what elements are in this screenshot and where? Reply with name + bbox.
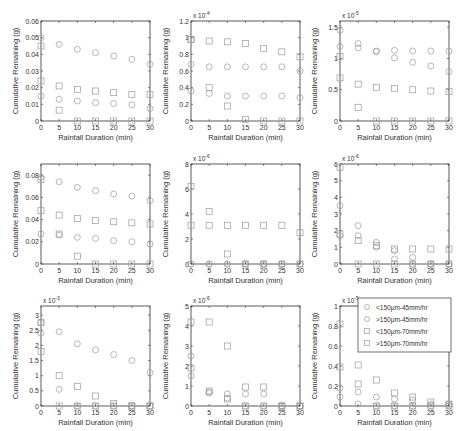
x-axis-label: Rainfall Duration (min) <box>357 133 432 142</box>
y-tick-label: 5 <box>185 303 189 310</box>
y-tick-label: 0.02 <box>25 84 39 91</box>
x-axis-label: Rainfall Duration (min) <box>58 418 133 427</box>
x-tick-label: 10 <box>73 409 81 416</box>
x-tick-label: 15 <box>391 409 399 416</box>
x-tick-label: 20 <box>260 409 268 416</box>
chart-panel-row3-col1: 05101520253000.511.522.53x 10-3Rainfall … <box>11 295 154 427</box>
x-axis-label: Rainfall Duration (min) <box>357 418 432 427</box>
y-tick-label: 1 <box>334 55 338 62</box>
x-tick-label: 15 <box>92 124 100 131</box>
y-tick-label: 1 <box>35 372 39 379</box>
y-tick-label: 1 <box>185 383 189 390</box>
y-tick-label: 2 <box>185 363 189 370</box>
y-tick-label: 0.4 <box>179 84 189 91</box>
y-tick-label: 1.5 <box>328 24 338 31</box>
x-tick-label: 25 <box>427 267 435 274</box>
x-tick-label: 15 <box>92 267 100 274</box>
y-tick-label: 6 <box>185 186 189 193</box>
chart-panel-row1-col1: 05101520253000.010.020.030.040.050.06Rai… <box>11 18 154 143</box>
x-tick-label: 25 <box>128 409 136 416</box>
x-tick-label: 30 <box>296 124 304 131</box>
x-tick-label: 0 <box>338 267 342 274</box>
x-tick-label: 0 <box>189 409 193 416</box>
x-tick-label: 30 <box>445 124 453 131</box>
x-tick-label: 30 <box>445 409 453 416</box>
axes-box <box>41 306 150 406</box>
y-axis-label: Cumulative Remaining (g) <box>11 312 20 399</box>
x-tick-label: 15 <box>391 267 399 274</box>
x-tick-label: 15 <box>242 124 250 131</box>
axes-box <box>191 21 300 121</box>
x-tick-label: 5 <box>207 409 211 416</box>
y-tick-label: 4 <box>334 194 338 201</box>
y-tick-label: 0 <box>35 403 39 410</box>
y-tick-label: 0.2 <box>328 383 338 390</box>
y-tick-label: 2 <box>185 236 189 243</box>
y-tick-label: 8 <box>185 161 189 168</box>
y-axis-label: Cumulative Remaining (g) <box>161 312 170 399</box>
x-tick-label: 25 <box>278 124 286 131</box>
y-tick-label: 0.5 <box>328 86 338 93</box>
axes-box <box>340 21 449 121</box>
x-axis-label: Rainfall Duration (min) <box>58 133 133 142</box>
y-tick-label: 0.05 <box>25 34 39 41</box>
x-tick-label: 25 <box>427 124 435 131</box>
y-tick-label: 1 <box>334 244 338 251</box>
legend-label: >150μm-70mm/hr <box>376 340 428 348</box>
x-axis-label: Rainfall Duration (min) <box>357 276 432 285</box>
y-tick-label: 0 <box>185 261 189 268</box>
x-tick-label: 10 <box>223 124 231 131</box>
y-tick-label: 0 <box>334 118 338 125</box>
x-tick-label: 30 <box>146 409 154 416</box>
y-tick-label: 0.5 <box>29 387 39 394</box>
x-tick-label: 0 <box>338 409 342 416</box>
legend: <150μm-45mm/hr>150μm-45mm/hr<150μm-70mm/… <box>358 298 451 352</box>
y-tick-label: 0.04 <box>25 216 39 223</box>
y-axis-label: Cumulative Remaining (g) <box>11 27 20 114</box>
y-tick-label: 1 <box>334 303 338 310</box>
x-tick-label: 20 <box>409 267 417 274</box>
y-exponent-label: x 10-5 <box>342 10 359 19</box>
y-exponent-label: x 10-5 <box>342 295 359 304</box>
x-tick-label: 10 <box>372 409 380 416</box>
y-tick-label: 0.01 <box>25 101 39 108</box>
y-axis-label: Cumulative Remaining (g) <box>310 170 319 257</box>
y-tick-label: 3 <box>334 211 338 218</box>
x-tick-label: 5 <box>207 124 211 131</box>
y-tick-label: 1.2 <box>179 18 189 25</box>
y-tick-label: 5 <box>334 177 338 184</box>
x-tick-label: 5 <box>57 409 61 416</box>
y-exponent-label: x 10-6 <box>193 295 210 304</box>
y-tick-label: 3 <box>185 343 189 350</box>
x-tick-label: 0 <box>338 124 342 131</box>
x-tick-label: 10 <box>372 267 380 274</box>
x-tick-label: 30 <box>296 409 304 416</box>
y-tick-label: 0.4 <box>328 363 338 370</box>
x-tick-label: 0 <box>39 124 43 131</box>
legend-label: <150μm-70mm/hr <box>376 328 428 336</box>
x-tick-label: 0 <box>39 409 43 416</box>
y-tick-label: 4 <box>185 323 189 330</box>
x-tick-label: 30 <box>146 267 154 274</box>
x-tick-label: 25 <box>128 124 136 131</box>
chart-panel-row2-col1: 05101520253000.020.040.060.08Rainfall Du… <box>11 164 154 285</box>
x-tick-label: 0 <box>189 267 193 274</box>
x-tick-label: 15 <box>242 267 250 274</box>
x-tick-label: 20 <box>409 409 417 416</box>
x-tick-label: 10 <box>73 267 81 274</box>
y-tick-label: 1 <box>185 34 189 41</box>
x-axis-label: Rainfall Duration (min) <box>208 276 283 285</box>
legend-label: >150μm-45mm/hr <box>376 316 428 324</box>
x-tick-label: 10 <box>372 124 380 131</box>
x-axis-label: Rainfall Duration (min) <box>208 133 283 142</box>
y-tick-label: 0.8 <box>328 323 338 330</box>
x-tick-label: 15 <box>92 409 100 416</box>
y-tick-label: 0.06 <box>25 194 39 201</box>
x-tick-label: 20 <box>409 124 417 131</box>
x-tick-label: 20 <box>110 124 118 131</box>
x-tick-label: 0 <box>39 267 43 274</box>
y-exponent-label: x 10-6 <box>342 153 359 162</box>
x-tick-label: 10 <box>223 409 231 416</box>
y-tick-label: 0.6 <box>179 68 189 75</box>
y-axis-label: Cumulative Remaining (g) <box>11 170 20 257</box>
